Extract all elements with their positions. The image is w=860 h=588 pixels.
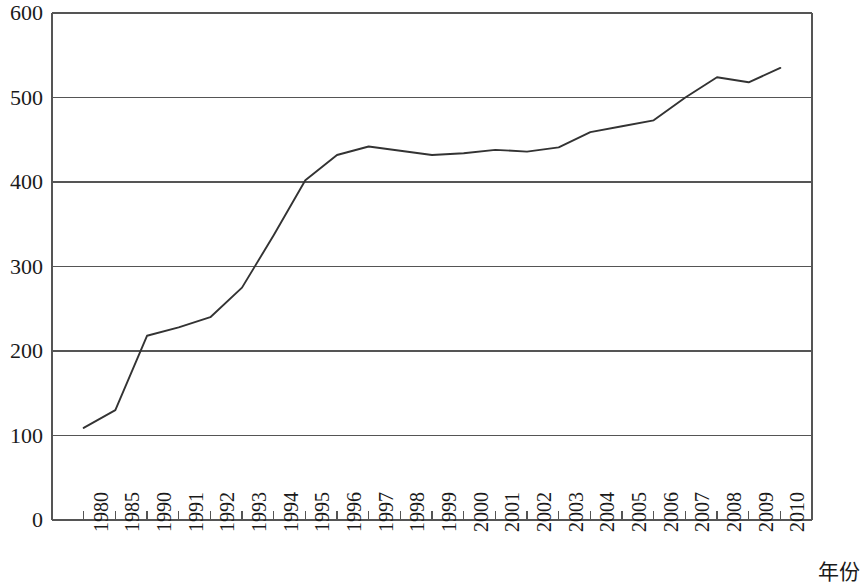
x-axis-tick-label-2005: 2005: [629, 492, 649, 532]
x-axis-tick-label-2003: 2003: [566, 492, 586, 532]
y-axis-tick-label-400: 400: [10, 171, 43, 193]
y-axis-tick-label-0: 0: [32, 509, 43, 531]
x-axis-tick-label-1991: 1991: [186, 492, 206, 532]
y-axis-tick-label-100: 100: [10, 425, 43, 447]
x-axis-tick-label-2004: 2004: [597, 492, 617, 532]
x-axis-tick-label-2002: 2002: [534, 492, 554, 532]
x-axis-tick-label-1980: 1980: [91, 492, 111, 532]
x-axis-tick-label-1985: 1985: [122, 492, 142, 532]
x-axis-tick-label-1997: 1997: [376, 492, 396, 532]
x-axis-tick-label-2006: 2006: [661, 492, 681, 532]
x-axis-tick-label-1996: 1996: [344, 492, 364, 532]
x-axis-title: 年份: [818, 562, 860, 583]
x-axis-tick-label-1999: 1999: [439, 492, 459, 532]
x-axis-tick-label-2009: 2009: [756, 492, 776, 532]
x-axis-tick-label-1995: 1995: [312, 492, 332, 532]
y-axis-tick-label-500: 500: [10, 87, 43, 109]
y-axis-tick-label-300: 300: [10, 256, 43, 278]
x-axis-tick-label-2000: 2000: [471, 492, 491, 532]
x-axis-tick-label-1990: 1990: [154, 492, 174, 532]
data-line-series: [84, 68, 781, 428]
x-axis-tick-label-1993: 1993: [249, 492, 269, 532]
x-axis-tick-label-2001: 2001: [502, 492, 522, 532]
x-axis-tick-label-1994: 1994: [281, 492, 301, 532]
x-axis-tick-label-1998: 1998: [407, 492, 427, 532]
x-axis-tick-label-2008: 2008: [724, 492, 744, 532]
x-axis-tick-label-2010: 2010: [787, 492, 807, 532]
x-axis-tick-label-1992: 1992: [217, 492, 237, 532]
x-axis-tick-label-2007: 2007: [692, 492, 712, 532]
y-axis-tick-label-200: 200: [10, 340, 43, 362]
y-axis-tick-label-600: 600: [10, 2, 43, 24]
